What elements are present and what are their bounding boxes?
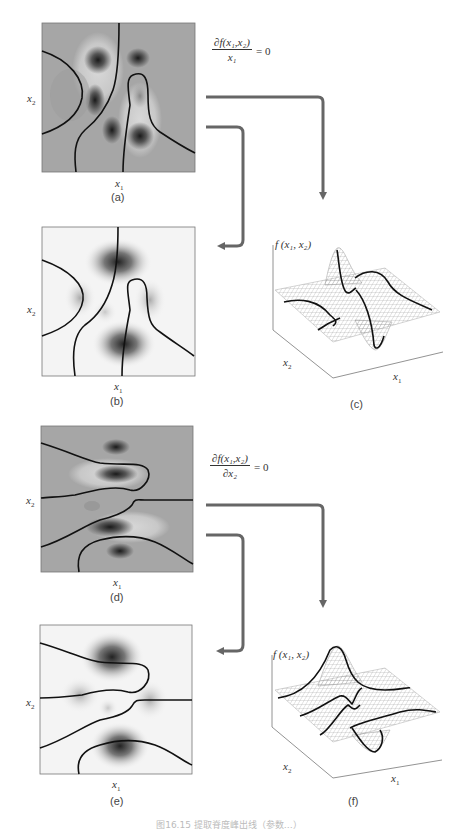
panel-e-ylabel: x2 bbox=[26, 696, 34, 711]
equation-top-rhs: = 0 bbox=[256, 45, 270, 57]
arrow-a-to-b bbox=[206, 127, 243, 246]
panel-f-ylabel: x2 bbox=[283, 760, 291, 775]
panel-c-label: (c) bbox=[350, 398, 363, 410]
panel-b-xlabel: x1 bbox=[114, 380, 122, 395]
figure-caption: 图16.15 提取脊度峰出线（参数…） bbox=[0, 818, 458, 831]
equation-bottom-numerator: ∂f(x₁,x₂) bbox=[210, 452, 250, 466]
panel-f-label: (f) bbox=[348, 795, 358, 807]
equation-bottom-rhs: = 0 bbox=[254, 461, 268, 473]
panel-d-label: (d) bbox=[110, 591, 123, 603]
panel-d-plot bbox=[41, 426, 193, 572]
panel-a-ylabel: x2 bbox=[27, 92, 35, 107]
panel-f-xlabel: x1 bbox=[391, 772, 399, 787]
panel-b-ylabel: x2 bbox=[27, 303, 35, 318]
equation-bottom: ∂f(x₁,x₂) ∂x₂ = 0 bbox=[210, 452, 250, 479]
panel-c-xlabel: x1 bbox=[393, 370, 401, 385]
panel-b-plot bbox=[42, 227, 195, 376]
arrow-d-to-e bbox=[206, 535, 243, 651]
panel-e-xlabel: x1 bbox=[112, 778, 120, 793]
arrow-a-to-c bbox=[206, 97, 323, 196]
panel-c-3d-surface bbox=[273, 245, 443, 378]
equation-bottom-denominator: ∂x₂ bbox=[210, 466, 250, 479]
panel-d-xlabel: x1 bbox=[113, 576, 121, 591]
arrow-d-to-f bbox=[206, 505, 323, 604]
panel-b-label: (b) bbox=[110, 395, 123, 407]
panel-c-zlabel: f (x₁, x₂) bbox=[275, 238, 311, 250]
panel-a-label: (a) bbox=[111, 191, 124, 203]
equation-top-numerator: ∂f(x₁,x₂) bbox=[212, 36, 252, 50]
panel-e-plot bbox=[40, 625, 192, 774]
panel-f-3d-surface bbox=[272, 646, 442, 778]
panel-f-zlabel: f (x₁, x₂) bbox=[273, 648, 309, 660]
equation-top-denominator: x₁ bbox=[212, 50, 252, 63]
flow-arrows bbox=[206, 97, 323, 651]
panel-a-xlabel: x1 bbox=[115, 177, 123, 192]
panel-a-plot bbox=[42, 23, 195, 172]
panel-d-ylabel: x2 bbox=[26, 494, 34, 509]
panel-e-label: (e) bbox=[110, 795, 123, 807]
panel-c-ylabel: x2 bbox=[283, 356, 291, 371]
equation-top: ∂f(x₁,x₂) x₁ = 0 bbox=[212, 36, 252, 63]
